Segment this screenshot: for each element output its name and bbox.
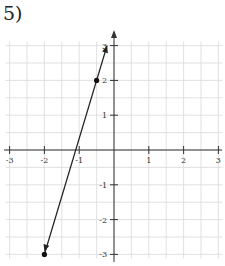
y-tick-label: -1: [99, 181, 107, 190]
y-tick-label: -2: [99, 216, 107, 225]
x-tick-label: -2: [41, 156, 49, 165]
x-tick-label: 3: [216, 156, 221, 165]
plotted-point: [42, 252, 47, 257]
line-arrow-bottom-icon: [44, 244, 50, 252]
x-tick-label: -1: [75, 156, 83, 165]
y-tick-label: -3: [99, 250, 107, 259]
coordinate-graph: -3-2-1123-3-2-1123: [0, 0, 225, 266]
y-tick-label: 2: [102, 76, 107, 85]
x-tick-label: -3: [6, 156, 14, 165]
plotted-point: [94, 78, 99, 83]
x-tick-label: 2: [181, 156, 186, 165]
x-tick-label: 1: [146, 156, 151, 165]
y-tick-label: 1: [102, 111, 107, 120]
y-axis-arrow-icon: [111, 30, 117, 38]
